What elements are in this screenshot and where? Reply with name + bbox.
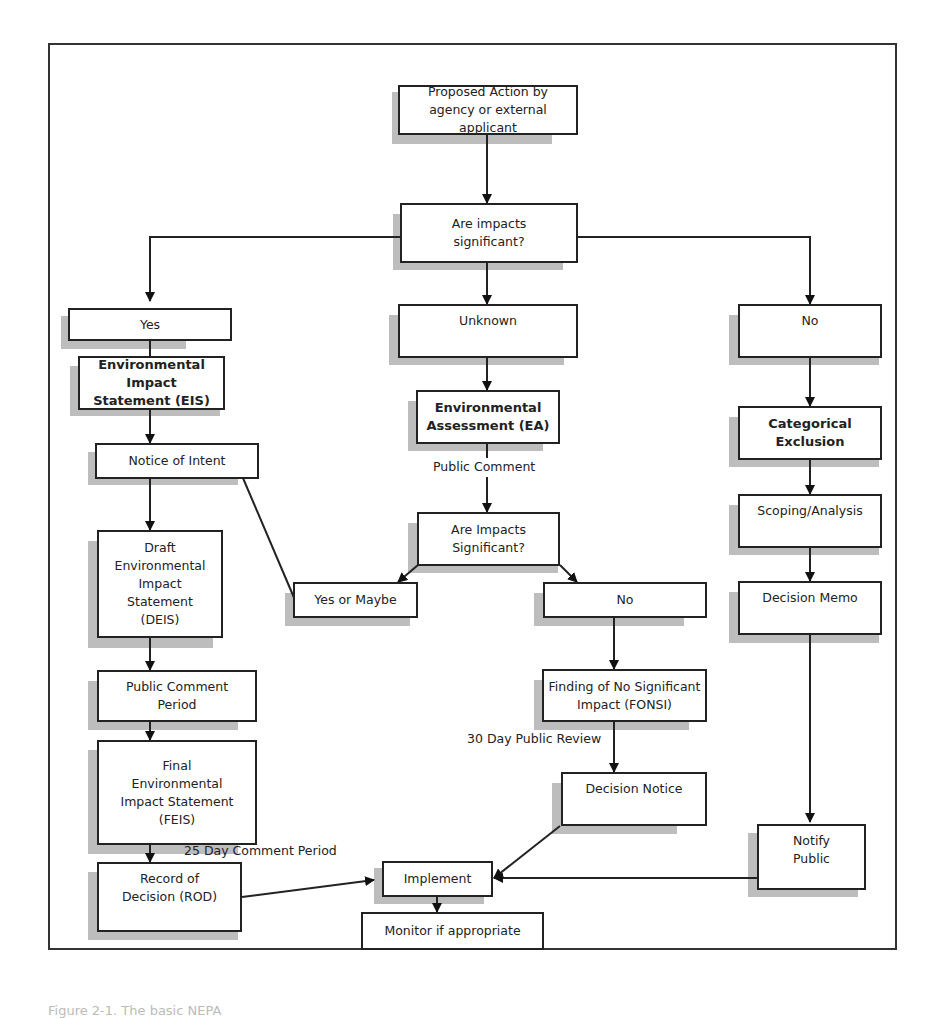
node-yes: Yes [68,308,232,341]
node-deis: Draft Environmental Impact Statement (DE… [97,530,223,638]
node-impacts-significant-question: Are impacts significant? [400,203,578,263]
node-eis: Environmental Impact Statement (EIS) [78,356,225,410]
node-unknown: Unknown [398,304,578,358]
node-proposed-action: Proposed Action by agency or external ap… [398,85,578,135]
edge-label-25-day-comment: 25 Day Comment Period [184,843,337,858]
node-scoping-analysis: Scoping/Analysis [738,494,882,548]
node-fonsi: Finding of No Significant Impact (FONSI) [542,669,707,722]
edge-label-30-day-review: 30 Day Public Review [467,731,601,746]
figure-caption: Figure 2-1. The basic NEPA [48,1003,221,1018]
node-yes-or-maybe: Yes or Maybe [293,582,418,618]
node-categorical-exclusion: Categorical Exclusion [738,406,882,460]
node-record-of-decision: Record of Decision (ROD) [97,862,242,932]
edge-label-public-comment: Public Comment [433,459,535,474]
node-no-middle: No [543,582,707,618]
node-ea: Environmental Assessment (EA) [416,390,560,444]
node-implement: Implement [382,861,493,897]
node-decision-notice: Decision Notice [561,772,707,826]
node-feis: Final Environmental Impact Statement (FE… [97,740,257,845]
node-impacts-significant-question-2: Are Impacts Significant? [417,512,560,566]
node-no-right: No [738,304,882,358]
node-notice-of-intent: Notice of Intent [95,443,259,479]
node-notify-public: Notify Public [757,824,866,890]
node-public-comment-period: Public Comment Period [97,670,257,722]
node-monitor: Monitor if appropriate [361,912,544,950]
node-decision-memo: Decision Memo [738,581,882,635]
